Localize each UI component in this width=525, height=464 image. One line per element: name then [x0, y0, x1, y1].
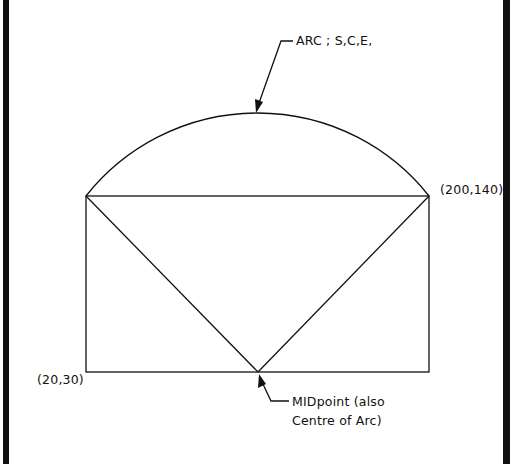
midpoint-label-line2: Centre of Arc): [292, 414, 382, 428]
midpoint-arrowhead-icon: [258, 374, 266, 388]
midpoint-label-line1: MIDpoint (also: [292, 395, 385, 409]
cad-drawing: [0, 0, 525, 464]
right-diagonal: [258, 196, 429, 372]
top-right-coordinate-label: (200,140): [440, 183, 503, 197]
midpoint-leader-line: [262, 382, 289, 401]
bottom-left-coordinate-label: (20,30): [37, 373, 84, 387]
arc-arrowhead-icon: [255, 99, 263, 113]
arc: [86, 113, 429, 196]
rectangle: [86, 196, 429, 372]
arc-leader-line: [259, 41, 293, 103]
arc-label: ARC ; S,C,E,: [296, 34, 372, 48]
left-diagonal: [86, 196, 258, 372]
